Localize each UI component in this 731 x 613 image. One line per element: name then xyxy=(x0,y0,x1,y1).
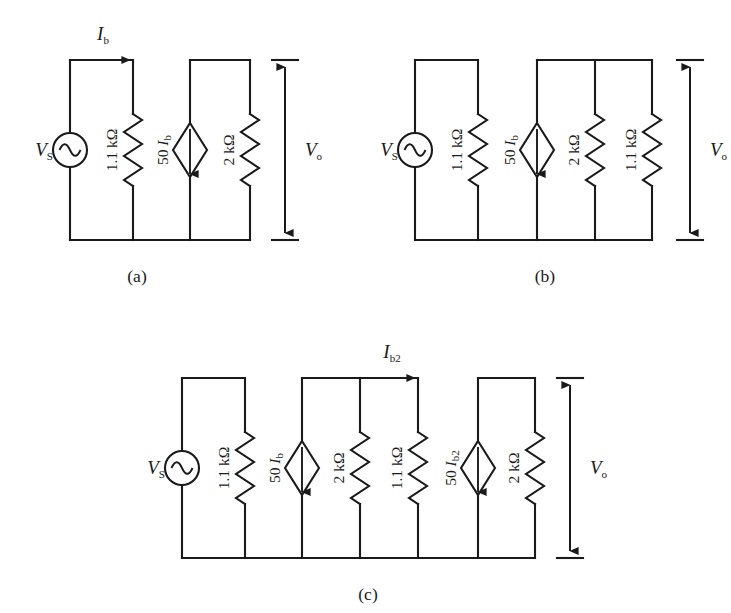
dep-source-label-c-2: 50 Ib xyxy=(266,452,284,483)
resistor-c-6-zigzag xyxy=(526,432,544,504)
resistor-label-c-1-text: 1.1 kΩ xyxy=(215,447,232,490)
resistor-c-1-zigzag xyxy=(236,432,254,504)
dep-source-label-c-2-text: 50 Ib xyxy=(266,452,284,483)
resistor-b-4-zigzag xyxy=(643,114,661,186)
resistor-label-a-3-text: 2 kΩ xyxy=(220,135,237,166)
resistor-a-1 xyxy=(124,114,142,186)
dep-source-a-2 xyxy=(173,123,207,177)
resistor-c-1 xyxy=(236,432,254,504)
resistor-label-b-4: 1.1 kΩ xyxy=(622,129,639,172)
output-voltage-c-label: Vo xyxy=(590,457,608,480)
resistor-b-4 xyxy=(643,114,661,186)
dep-source-label-b-2: 50 Ib xyxy=(501,134,519,165)
output-voltage-b-label: Vo xyxy=(710,139,728,162)
resistor-b-1-zigzag xyxy=(469,114,487,186)
current-arrow-a: Ib xyxy=(72,23,130,60)
resistor-label-c-3-text: 2 kΩ xyxy=(330,453,347,484)
output-voltage-a: Vo xyxy=(272,60,323,240)
circuit-figure: VS1.1 kΩ50 Ib2 kΩIbVo(a)VS1.1 kΩ50 Ib2 k… xyxy=(0,0,731,613)
circuit-figure-svg: VS1.1 kΩ50 Ib2 kΩIbVo(a)VS1.1 kΩ50 Ib2 k… xyxy=(0,0,731,613)
resistor-label-b-1: 1.1 kΩ xyxy=(448,129,465,172)
dep-source-b-2 xyxy=(520,123,554,177)
resistor-c-3 xyxy=(351,432,369,504)
branch-b-3-resistor: 2 kΩ xyxy=(565,60,604,240)
circuit-c: VS1.1 kΩ50 Ib2 kΩ1.1 kΩ50 Ib22 kΩIb2Vo(c… xyxy=(147,341,607,604)
resistor-c-6 xyxy=(526,432,544,504)
resistor-b-3-zigzag xyxy=(586,114,604,186)
resistor-a-3-zigzag xyxy=(241,114,259,186)
resistor-label-a-3: 2 kΩ xyxy=(220,135,237,166)
resistor-label-a-1-text: 1.1 kΩ xyxy=(103,129,120,172)
dep-source-c-2 xyxy=(285,441,319,495)
resistor-b-3 xyxy=(586,114,604,186)
circuit-a: VS1.1 kΩ50 Ib2 kΩIbVo(a) xyxy=(35,23,322,286)
branch-a-0-ac-source: VS xyxy=(35,60,87,240)
ac-voltage-source-b xyxy=(398,133,432,167)
dep-source-label-a-2: 50 Ib xyxy=(154,134,172,165)
branch-c-4-resistor: 1.1 kΩ xyxy=(388,378,427,558)
branch-c-0-ac-source: VS xyxy=(147,378,199,558)
resistor-a-1-zigzag xyxy=(124,114,142,186)
resistor-label-b-4-text: 1.1 kΩ xyxy=(622,129,639,172)
resistor-label-c-1: 1.1 kΩ xyxy=(215,447,232,490)
branch-a-2-dep-current-source: 50 Ib xyxy=(154,60,207,240)
resistor-label-b-3-text: 2 kΩ xyxy=(565,135,582,166)
dep-source-c-5 xyxy=(461,441,495,495)
output-voltage-a-label: Vo xyxy=(305,139,323,162)
current-arrow-label-a: Ib xyxy=(96,23,109,46)
caption-c: (c) xyxy=(358,584,378,604)
resistor-label-c-3: 2 kΩ xyxy=(330,453,347,484)
resistor-c-4-zigzag xyxy=(409,432,427,504)
resistor-label-b-1-text: 1.1 kΩ xyxy=(448,129,465,172)
dep-source-label-b-2-text: 50 Ib xyxy=(501,134,519,165)
resistor-label-c-6-text: 2 kΩ xyxy=(505,453,522,484)
output-voltage-c: Vo xyxy=(557,378,608,558)
branch-a-1-resistor: 1.1 kΩ xyxy=(103,60,142,240)
current-arrow-label-c: Ib2 xyxy=(382,341,400,364)
ac-voltage-source-c xyxy=(165,451,199,485)
branch-c-3-resistor: 2 kΩ xyxy=(330,378,369,558)
source-label-c: VS xyxy=(147,457,165,480)
circuit-b: VS1.1 kΩ50 Ib2 kΩ1.1 kΩVo(b) xyxy=(380,60,727,286)
resistor-label-a-1: 1.1 kΩ xyxy=(103,129,120,172)
ac-voltage-source-a xyxy=(53,133,87,167)
source-label-b: VS xyxy=(380,139,398,162)
branch-c-6-resistor: 2 kΩ xyxy=(505,378,544,558)
branch-b-4-resistor: 1.1 kΩ xyxy=(622,60,661,240)
branch-a-3-resistor: 2 kΩ xyxy=(220,60,259,240)
caption-b: (b) xyxy=(535,266,556,286)
caption-a: (a) xyxy=(127,266,147,286)
resistor-c-4 xyxy=(409,432,427,504)
source-label-a: VS xyxy=(35,139,53,162)
output-voltage-b: Vo xyxy=(677,60,728,240)
resistor-a-3 xyxy=(241,114,259,186)
resistor-label-c-4: 1.1 kΩ xyxy=(388,447,405,490)
branch-b-1-resistor: 1.1 kΩ xyxy=(448,60,487,240)
branch-c-2-dep-current-source: 50 Ib xyxy=(266,378,319,558)
dep-source-label-c-5: 50 Ib2 xyxy=(442,450,460,486)
resistor-label-c-6: 2 kΩ xyxy=(505,453,522,484)
branch-b-2-dep-current-source: 50 Ib xyxy=(501,60,554,240)
branch-c-5-dep-current-source: 50 Ib2 xyxy=(442,378,495,558)
resistor-label-b-3: 2 kΩ xyxy=(565,135,582,166)
branch-b-0-ac-source: VS xyxy=(380,60,432,240)
branch-c-1-resistor: 1.1 kΩ xyxy=(215,378,254,558)
dep-source-label-c-5-text: 50 Ib2 xyxy=(442,450,460,486)
resistor-label-c-4-text: 1.1 kΩ xyxy=(388,447,405,490)
resistor-c-3-zigzag xyxy=(351,432,369,504)
dep-source-label-a-2-text: 50 Ib xyxy=(154,134,172,165)
current-arrow-c: Ib2 xyxy=(360,341,415,378)
resistor-b-1 xyxy=(469,114,487,186)
